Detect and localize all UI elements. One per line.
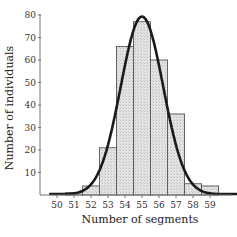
y-tick-label: 40 <box>25 100 37 110</box>
y-tick-label: 30 <box>25 123 37 133</box>
bar-56 <box>151 60 168 195</box>
x-tick-label: 51 <box>68 200 79 210</box>
x-axis-title: Number of segments <box>82 213 199 226</box>
bar-53 <box>100 148 117 195</box>
x-tick-label: 58 <box>187 200 199 210</box>
x-tick-label: 54 <box>119 200 131 210</box>
y-tick-label: 70 <box>25 33 37 43</box>
x-tick-label: 50 <box>51 200 63 210</box>
y-tick-label: 80 <box>25 10 37 20</box>
x-tick-label: 56 <box>153 200 165 210</box>
y-tick-label: 10 <box>25 168 37 178</box>
x-tick-label: 53 <box>102 200 114 210</box>
x-tick-label: 52 <box>85 200 96 210</box>
y-axis-title: Number of individuals <box>3 45 16 170</box>
x-axis-ticks: 50515253545556575859 <box>51 195 216 210</box>
x-tick-label: 57 <box>170 200 182 210</box>
x-tick-label: 55 <box>136 200 148 210</box>
histogram-bars <box>66 22 219 195</box>
histogram-chart: 1020304050607080 50515253545556575859 Nu… <box>0 0 237 237</box>
y-tick-label: 50 <box>25 78 37 88</box>
x-tick-label: 59 <box>204 200 216 210</box>
bar-55 <box>134 22 151 195</box>
y-tick-label: 60 <box>25 55 37 65</box>
y-axis-ticks: 1020304050607080 <box>25 10 41 178</box>
y-tick-label: 20 <box>25 145 37 155</box>
